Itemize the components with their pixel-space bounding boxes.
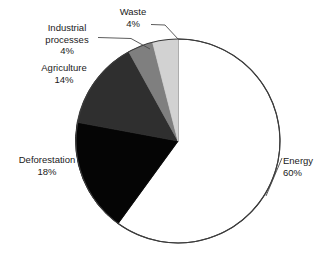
pie-label-agriculture-name: Agriculture (26, 62, 102, 74)
pie-label-waste: Waste 4% (104, 6, 162, 29)
pie-label-agriculture: Agriculture 14% (26, 62, 102, 85)
pie-label-industrial-processes-line1: Industrial (32, 22, 102, 34)
pie-label-industrial-processes: Industrial processes 4% (32, 22, 102, 57)
pie-label-waste-value: 4% (104, 18, 162, 30)
pie-label-deforestation-name: Deforestation (4, 154, 90, 166)
pie-label-industrial-processes-value: 4% (32, 45, 102, 57)
pie-label-energy: Energy 60% (283, 155, 325, 178)
pie-label-energy-value: 60% (283, 167, 325, 179)
pie-label-deforestation: Deforestation 18% (4, 154, 90, 177)
pie-chart: Waste 4% Industrial processes 4% Agricul… (0, 0, 325, 261)
pie-label-energy-name: Energy (283, 155, 325, 167)
pie-label-agriculture-value: 14% (26, 74, 102, 86)
pie-label-deforestation-value: 18% (4, 166, 90, 178)
pie-label-waste-name: Waste (104, 6, 162, 18)
pie-label-industrial-processes-line2: processes (32, 34, 102, 46)
